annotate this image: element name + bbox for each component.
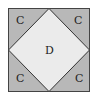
region-label-top-left: C — [16, 14, 24, 27]
region-label-center: D — [45, 44, 54, 57]
region-label-bottom-right: C — [75, 72, 83, 85]
diagram-canvas: C C D C C — [0, 0, 91, 97]
region-label-top-right: C — [74, 14, 82, 27]
region-label-bottom-left: C — [16, 72, 24, 85]
